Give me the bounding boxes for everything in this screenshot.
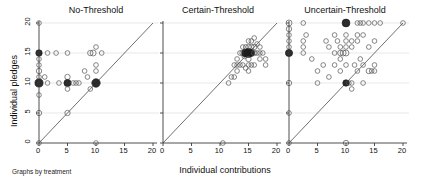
panel-title-no-threshold: No-Threshold bbox=[36, 5, 156, 15]
x-tick-label: 0 bbox=[280, 146, 296, 155]
figure-root: Individual pledges Individual contributi… bbox=[0, 0, 425, 182]
x-tick-label: 10 bbox=[211, 146, 227, 155]
x-tick-label: 15 bbox=[240, 146, 256, 155]
x-tick-label: 20 bbox=[394, 146, 410, 155]
panel-uncertain-threshold bbox=[288, 22, 402, 142]
y-tick-label: 10 bbox=[23, 75, 32, 89]
figure-footnote: Graphs by treatment bbox=[12, 168, 71, 175]
y-tick-label: 5 bbox=[23, 105, 32, 119]
panel-title-uncertain-threshold: Uncertain-Threshold bbox=[283, 5, 407, 15]
x-tick-label: 15 bbox=[366, 146, 382, 155]
panel-certain-threshold bbox=[162, 22, 276, 142]
x-tick-label: 10 bbox=[337, 146, 353, 155]
x-tick-label: 0 bbox=[154, 146, 170, 155]
x-tick-label: 15 bbox=[116, 146, 132, 155]
x-tick-label: 5 bbox=[309, 146, 325, 155]
y-tick-label: 20 bbox=[23, 15, 32, 29]
y-tick-label: 15 bbox=[23, 45, 32, 59]
x-tick-label: 10 bbox=[87, 146, 103, 155]
panel-title-certain-threshold: Certain-Threshold bbox=[158, 5, 278, 15]
x-tick-label: 0 bbox=[30, 146, 46, 155]
y-axis-label: Individual pledges bbox=[9, 55, 19, 127]
x-tick-label: 5 bbox=[59, 146, 75, 155]
x-tick-label: 5 bbox=[183, 146, 199, 155]
x-axis-label: Individual contributions bbox=[135, 165, 315, 175]
panel-no-threshold bbox=[38, 22, 152, 142]
